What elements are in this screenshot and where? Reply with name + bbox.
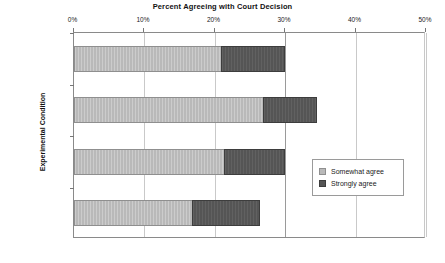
x-tick-label: 20% bbox=[207, 16, 220, 23]
bar-segment-somewhat-agree bbox=[74, 149, 226, 175]
y-tick-mark bbox=[70, 188, 74, 189]
x-tick-label: 40% bbox=[348, 16, 361, 23]
bar-segment-somewhat-agree bbox=[74, 46, 222, 72]
y-tick-mark bbox=[70, 33, 74, 34]
legend-item-strongly-agree: Strongly agree bbox=[319, 178, 397, 189]
bar-row bbox=[74, 46, 427, 72]
somewhat-agree-swatch-icon bbox=[319, 168, 326, 175]
x-tick-mark bbox=[143, 28, 144, 32]
legend-label-strongly-agree: Strongly agree bbox=[331, 180, 377, 187]
chart-title: Percent Agreeing with Court Decision bbox=[0, 2, 445, 11]
bar-segment-strongly-agree bbox=[224, 149, 285, 175]
bar-chart: Percent Agreeing with Court Decision Exp… bbox=[0, 0, 445, 263]
x-gridline bbox=[426, 33, 427, 237]
x-tick-label: 30% bbox=[277, 16, 290, 23]
x-tick-mark bbox=[425, 28, 426, 32]
bar-segment-strongly-agree bbox=[192, 200, 260, 226]
x-tick-mark bbox=[214, 28, 215, 32]
bar-segment-somewhat-agree bbox=[74, 97, 264, 123]
bar-row bbox=[74, 200, 427, 226]
x-tick-label: 50% bbox=[418, 16, 431, 23]
bar-segment-strongly-agree bbox=[263, 97, 317, 123]
strongly-agree-swatch-icon bbox=[319, 180, 326, 187]
legend-label-somewhat-agree: Somewhat agree bbox=[331, 168, 384, 175]
plot-area bbox=[73, 32, 426, 238]
x-tick-mark bbox=[355, 28, 356, 32]
x-tick-mark bbox=[284, 28, 285, 32]
y-tick-mark bbox=[70, 85, 74, 86]
bar-segment-somewhat-agree bbox=[74, 200, 194, 226]
x-tick-label: 10% bbox=[136, 16, 149, 23]
x-tick-mark bbox=[73, 28, 74, 32]
y-tick-mark bbox=[70, 136, 74, 137]
y-axis-title: Experimental Condition bbox=[39, 92, 46, 171]
bar-row bbox=[74, 97, 427, 123]
chart-legend: Somewhat agree Strongly agree bbox=[312, 159, 404, 196]
x-tick-label: 0% bbox=[68, 16, 77, 23]
bar-segment-strongly-agree bbox=[221, 46, 285, 72]
legend-item-somewhat-agree: Somewhat agree bbox=[319, 166, 397, 177]
